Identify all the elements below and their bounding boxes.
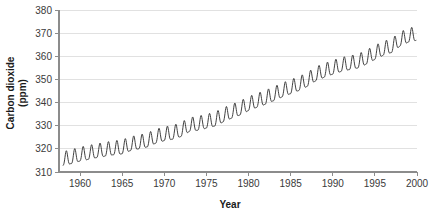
x-tick-label: 1980 [237, 178, 260, 189]
x-tick-label: 1960 [69, 178, 92, 189]
y-tick-label: 350 [35, 74, 52, 85]
x-tick-label: 1985 [280, 178, 303, 189]
gridlines-group [59, 10, 417, 149]
y-tick-group: 310320330340350360370380 [35, 5, 59, 178]
y-axis-title-line2: (ppm) [17, 79, 28, 107]
y-tick-label: 360 [35, 51, 52, 62]
x-tick-label: 1975 [195, 178, 218, 189]
x-tick-label: 1965 [111, 178, 134, 189]
y-tick-label: 310 [35, 167, 52, 178]
y-tick-label: 330 [35, 120, 52, 131]
co2-data-line [63, 27, 416, 165]
y-tick-label: 320 [35, 143, 52, 154]
y-tick-label: 370 [35, 28, 52, 39]
y-tick-label: 380 [35, 5, 52, 16]
x-tick-label: 1970 [153, 178, 176, 189]
y-tick-label: 340 [35, 97, 52, 108]
x-tick-label: 2000 [406, 178, 429, 189]
x-tick-group: 196019651970197519801985199019952000 [69, 172, 429, 189]
x-tick-label: 1990 [322, 178, 345, 189]
co2-chart-figure: 310320330340350360370380 196019651970197… [0, 0, 430, 214]
x-tick-label: 1995 [364, 178, 387, 189]
y-axis-title-line1: Carbon dioxide [5, 56, 16, 129]
chart-canvas: 310320330340350360370380 196019651970197… [0, 0, 430, 214]
x-axis-title: Year [219, 199, 240, 210]
